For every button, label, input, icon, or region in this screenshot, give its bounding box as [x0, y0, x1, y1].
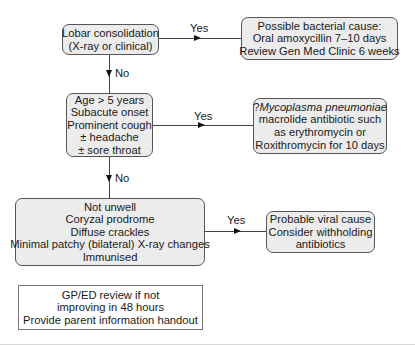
node-text: Lobar consolidation [62, 27, 159, 40]
node-text: Minimal patchy (bilateral) X-ray changes [10, 238, 210, 251]
arrow-right-icon [234, 228, 241, 234]
node-text: Probable viral cause [270, 213, 371, 226]
node-text: Review Gen Med Clinic 6 weeks [239, 45, 399, 58]
node-text: ± sore throat [78, 144, 141, 157]
node-probable-viral: Probable viral cause Consider withholdin… [266, 211, 375, 253]
arrow-down-icon [106, 70, 112, 77]
arrow-right-icon [194, 35, 201, 41]
node-text: as erythromycin or [274, 126, 366, 139]
node-text: Oral amoxycillin 7–10 days [253, 32, 387, 45]
node-text: Provide parent information handout [23, 314, 198, 327]
node-mycoplasma: ?Mycoplasma pneumoniae macrolide antibio… [253, 98, 387, 154]
node-text: Prominent cough [67, 119, 152, 132]
node-text: Possible bacterial cause: [258, 20, 382, 33]
node-lobar-consolidation: Lobar consolidation (X-ray or clinical) [62, 24, 159, 55]
node-text: Not unwell [84, 201, 136, 214]
node-text: GP/ED review if not [62, 289, 160, 302]
node-text: ± headache [80, 131, 138, 144]
node-text: Roxithromycin for 10 days [255, 139, 384, 152]
node-text: improving in 48 hours [57, 301, 164, 314]
node-viral-criteria: Not unwell Coryzal prodrome Diffuse crac… [15, 198, 205, 266]
node-review-note: GP/ED review if not improving in 48 hour… [18, 285, 203, 330]
node-text: Subacute onset [71, 106, 149, 119]
edge-label-no: No [115, 172, 129, 184]
edge-label-no: No [115, 67, 129, 79]
node-text: Age > 5 years [75, 94, 144, 107]
edge-label-yes: Yes [190, 22, 208, 34]
node-text: antibiotics [296, 238, 346, 251]
node-text: Coryzal prodrome [66, 213, 155, 226]
node-text: Immunised [83, 251, 138, 264]
node-text: Consider withholding [269, 226, 373, 239]
node-text: macrolide antibiotic such [259, 113, 382, 126]
node-text: (X-ray or clinical) [69, 40, 153, 53]
edge-label-yes: Yes [227, 214, 245, 226]
node-age-criteria: Age > 5 years Subacute onset Prominent c… [66, 93, 153, 157]
node-text: Diffuse crackles [71, 226, 150, 239]
arrow-right-icon [198, 122, 205, 128]
edge-label-yes: Yes [194, 110, 212, 122]
node-text: ?Mycoplasma pneumoniae [253, 101, 387, 114]
arrow-down-icon [106, 175, 112, 182]
organism-name: Mycoplasma pneumoniae [259, 101, 386, 113]
node-bacterial-cause: Possible bacterial cause: Oral amoxycill… [241, 17, 398, 60]
